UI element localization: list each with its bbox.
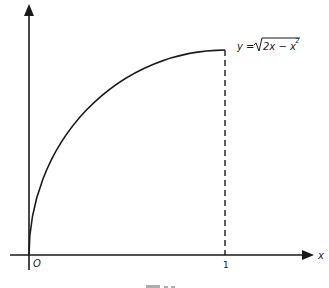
- svg-text:y =: y =: [236, 41, 254, 52]
- diagram-canvas: O 1 x y = 2x − x 2: [0, 0, 329, 288]
- curve-equation-label: y = 2x − x 2: [236, 37, 300, 52]
- x-tick-label-1: 1: [223, 260, 229, 270]
- x-axis-label: x: [317, 250, 324, 261]
- origin-label: O: [33, 258, 41, 269]
- curve: [29, 50, 225, 255]
- y-axis-arrowhead-icon: [24, 4, 34, 16]
- svg-text:2x − x: 2x − x: [263, 41, 296, 52]
- x-axis-arrowhead-icon: [302, 250, 314, 260]
- svg-text:2: 2: [295, 37, 299, 45]
